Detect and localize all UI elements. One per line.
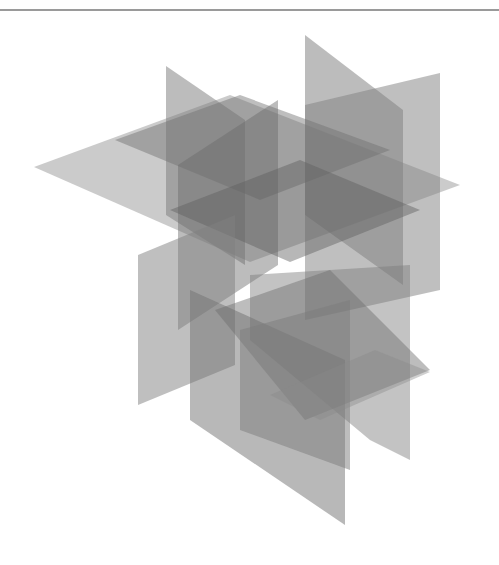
abstract-planes-illustration bbox=[0, 0, 499, 565]
